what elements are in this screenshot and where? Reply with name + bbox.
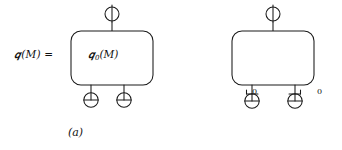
figure-root: 𝒒(M) = 𝒒0(M) <box>0 0 342 150</box>
ancilla-zero-label-right: 0 <box>317 88 322 96</box>
operator-box-b <box>232 31 314 85</box>
panel-a: 𝒒(M) = 𝒒0(M) <box>0 0 171 150</box>
operator-box-a-label: 𝒒0(M) <box>88 48 118 62</box>
ancilla-zero-label-left: 0 <box>252 88 257 96</box>
circuit-diagram-a <box>0 0 171 150</box>
panel-b: ℱ(M) (b) <box>171 0 342 150</box>
script-g0-symbol: 𝒒 <box>88 48 95 60</box>
circuit-diagram-b <box>171 0 342 150</box>
script-g0-argument: (M) <box>99 48 118 60</box>
caption-a: (a) <box>68 126 83 139</box>
